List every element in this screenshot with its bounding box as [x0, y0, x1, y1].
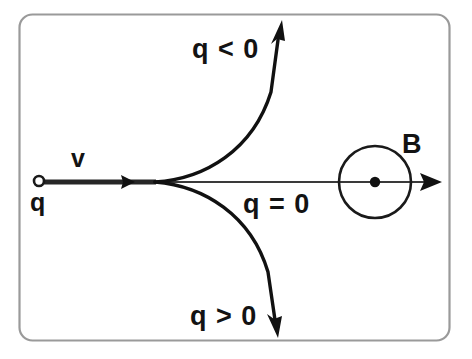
neutral-charge-label: q = 0	[243, 189, 310, 219]
diagram-canvas: q v q < 0 q = 0 q > 0 B	[0, 0, 472, 359]
negative-charge-label: q < 0	[192, 34, 259, 64]
magnetic-field-out-of-page-dot-icon	[370, 177, 380, 187]
charge-source-marker	[34, 176, 44, 186]
charge-source-label: q	[30, 188, 45, 216]
magnetic-field-label: B	[402, 129, 423, 159]
physics-diagram: q v q < 0 q = 0 q > 0 B	[0, 0, 472, 359]
velocity-label: v	[71, 144, 85, 172]
positive-charge-label: q > 0	[190, 301, 257, 331]
